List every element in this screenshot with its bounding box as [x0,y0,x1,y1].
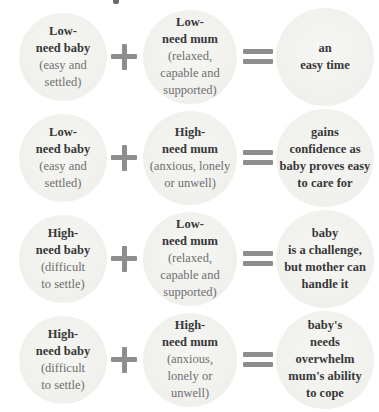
result-circle: an easy time [276,8,374,106]
equation-row-1: Low- need baby (easy and settled) Low- n… [0,6,379,107]
result-text: gains confidence as baby proves easy to … [280,124,371,192]
mum-circle: Low- need mum (relaxed, capable and supp… [143,212,237,306]
baby-circle: High- need baby (difficult to settle) [19,316,107,404]
baby-title: High- need baby [36,326,91,360]
baby-mum-equation-diagram: Low- need baby (easy and settled) Low- n… [0,0,379,412]
baby-circle: Low- need baby (easy and settled) [19,13,107,101]
baby-circle: Low- need baby (easy and settled) [19,114,107,202]
mum-subtitle: (anxious, lonely or unwell) [150,158,231,192]
mum-circle: High- need mum (anxious, lonely or unwel… [143,313,237,407]
plus-icon [110,144,138,172]
baby-subtitle: (difficult to settle) [41,360,85,394]
equation-row-3: High- need baby (difficult to settle) Lo… [0,208,379,309]
baby-subtitle: (difficult to settle) [41,259,85,293]
baby-subtitle: (easy and settled) [39,57,87,91]
mum-title: High- need mum [162,124,218,158]
mum-circle: Low- need mum (relaxed, capable and supp… [143,10,237,104]
mum-subtitle: (anxious, lonely or unwell) [167,351,213,402]
plus-icon [110,245,138,273]
result-text: baby's needs overwhelm mum's ability to … [288,317,361,402]
result-circle: gains confidence as baby proves easy to … [276,109,374,207]
baby-circle: High- need baby (difficult to settle) [19,215,107,303]
plus-icon [110,346,138,374]
equation-row-4: High- need baby (difficult to settle) Hi… [0,309,379,410]
result-text: an easy time [300,40,350,74]
equation-row-2: Low- need baby (easy and settled) High- … [0,107,379,208]
equals-icon [243,49,273,64]
cropped-text-fragment [113,0,119,4]
baby-title: Low- need baby [36,23,91,57]
baby-subtitle: (easy and settled) [39,158,87,192]
equals-icon [243,352,273,367]
mum-title: Low- need mum [162,14,218,48]
mum-title: Low- need mum [162,216,218,250]
baby-title: Low- need baby [36,124,91,158]
equals-icon [243,251,273,266]
mum-subtitle: (relaxed, capable and supported) [160,250,219,301]
mum-title: High- need mum [162,317,218,351]
mum-circle: High- need mum (anxious, lonely or unwel… [143,111,237,205]
result-circle: baby is a challenge, but mother can hand… [276,210,374,308]
plus-icon [110,43,138,71]
baby-title: High- need baby [36,225,91,259]
result-text: baby is a challenge, but mother can hand… [284,225,366,293]
mum-subtitle: (relaxed, capable and supported) [160,48,219,99]
equation-rows: Low- need baby (easy and settled) Low- n… [0,6,379,410]
equals-icon [243,150,273,165]
result-circle: baby's needs overwhelm mum's ability to … [276,311,374,409]
